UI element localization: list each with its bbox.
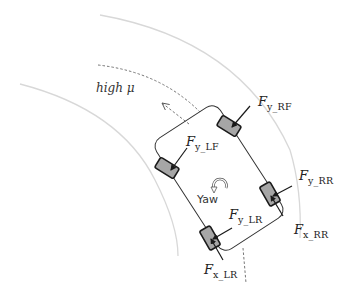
force-symbol: F [299, 168, 308, 183]
high-mu-label: high μ [96, 82, 135, 94]
force-subscript: x_LR [213, 269, 237, 280]
curved-arrow-icon [211, 179, 227, 193]
force-symbol: F [294, 222, 303, 237]
force-subscript: y_LR [238, 214, 262, 225]
vehicle-dynamics-diagram: high μ Yaw Fy_RF Fy_LF Fy_RR Fx_RR Fy_LR… [0, 0, 346, 295]
force-symbol: F [258, 94, 267, 109]
label-fy-rf: Fy_RF [258, 93, 292, 109]
label-fy-lf: Fy_LF [186, 133, 219, 149]
trajectory-dashed-tail [243, 248, 246, 283]
label-fx-rr: Fx_RR [294, 221, 328, 237]
wheel-lr [199, 225, 220, 250]
force-arrow-fy-rf [232, 106, 250, 127]
inner-road-edge [20, 84, 178, 256]
yaw-label: Yaw [197, 194, 218, 205]
force-subscript: y_RF [267, 101, 292, 112]
force-subscript: y_LF [195, 141, 219, 152]
force-symbol: F [204, 262, 213, 277]
force-symbol: F [229, 207, 238, 222]
wheel-rf [216, 115, 241, 137]
label-fy-rr: Fy_RR [299, 167, 333, 183]
label-fy-lr: Fy_LR [229, 206, 262, 222]
force-arrow-fy-lr [213, 228, 232, 239]
wheel-lf [154, 157, 179, 179]
force-subscript: x_RR [303, 229, 328, 240]
force-arrow-fy-lf [171, 148, 187, 170]
force-subscript: y_RR [308, 175, 333, 186]
force-symbol: F [186, 134, 195, 149]
label-fx-lr: Fx_LR [204, 261, 237, 277]
diagram-graphics [0, 0, 346, 295]
